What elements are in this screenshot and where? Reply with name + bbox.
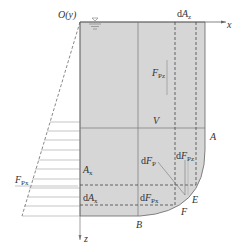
V-label: V [153,116,159,126]
Fpx-label: FPx [15,175,29,187]
dAz-label: dAz [177,9,191,21]
z-axis-arrow [79,235,82,240]
x-axis-label: x [227,20,231,30]
Ax-label: Ax [83,165,93,177]
dFpz-label: dFPz [176,151,194,163]
dAx-label: dAx [83,193,98,205]
dFpx-label: dFPx [140,193,159,205]
x-axis-arrow [221,21,226,24]
E-label: E [192,195,198,205]
fluid-region [80,22,205,216]
Fpz-label: FPz [152,68,165,80]
origin-label: O(y) [58,10,76,20]
pressure-triangle-edge [22,22,80,216]
z-axis-label: z [84,234,88,244]
dFp-label: dFP [141,156,156,168]
B-label: B [136,220,142,230]
F-label: F [181,207,187,217]
pressure-hatch-lines [22,122,80,216]
A-label: A [210,132,216,142]
pressure-diagram [0,0,246,249]
